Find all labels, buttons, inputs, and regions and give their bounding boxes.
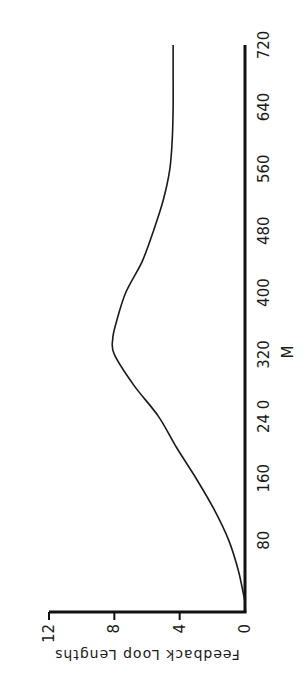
rotated-plot: 8016024 0320400480560640720 04812 M Feed…: [0, 0, 305, 700]
y-tick-label: 0: [236, 624, 254, 634]
y-tick-labels: 04812: [40, 624, 254, 643]
x-tick-label: 160: [255, 464, 273, 493]
y-tick-label: 12: [40, 624, 58, 643]
axes: [49, 45, 247, 620]
x-axis-label: M: [279, 346, 297, 359]
feedback-loop-chart: 8016024 0320400480560640720 04812 M Feed…: [0, 0, 305, 700]
x-tick-label: 560: [255, 154, 273, 183]
x-tick-label: 80: [255, 531, 273, 550]
x-tick-labels: 8016024 0320400480560640720: [255, 31, 273, 550]
x-tick-label: 24 0: [255, 400, 273, 433]
y-axis-label: Feedback Loop Lengths: [54, 647, 240, 663]
x-tick-label: 640: [255, 93, 273, 122]
y-tick-label: 4: [171, 624, 189, 634]
x-tick-label: 320: [255, 340, 273, 369]
chart-svg: 8016024 0320400480560640720 04812 M Feed…: [0, 0, 305, 700]
y-tick-label: 8: [105, 624, 123, 634]
data-line: [112, 45, 245, 602]
x-tick-label: 720: [255, 31, 273, 60]
x-tick-label: 400: [255, 278, 273, 307]
x-tick-label: 480: [255, 216, 273, 245]
